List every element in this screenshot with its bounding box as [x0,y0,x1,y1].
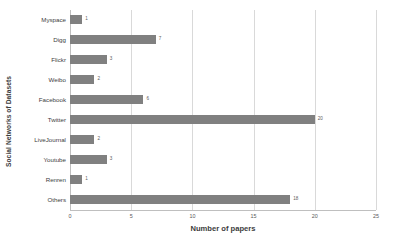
bar-row: 7 [70,35,376,44]
bar-value-label: 20 [318,117,323,122]
category-label-flickr: Flickr [0,56,70,63]
bar-row: 2 [70,75,376,84]
bar-flickr [70,55,107,64]
x-tick-label: 10 [180,213,204,219]
plot-area: 173262023118 [70,10,376,210]
bar-value-label: 7 [159,37,162,42]
x-axis-title: Number of papers [70,224,376,233]
category-label-youtube: Youtube [0,156,70,163]
bar-livejournal [70,135,94,144]
bar-row: 18 [70,195,376,204]
category-label-renren: Renren [0,176,70,183]
gridline-25 [376,10,377,210]
x-tick-label: 0 [58,213,82,219]
x-tick-label: 25 [364,213,388,219]
bar-value-label: 1 [85,177,88,182]
category-label-twitter: Twitter [0,116,70,123]
bar-value-label: 3 [110,57,113,62]
x-tick-label: 20 [303,213,327,219]
category-label-weibo: Weibo [0,76,70,83]
bar-value-label: 2 [97,137,100,142]
bar-value-label: 18 [293,197,298,202]
category-label-facebook: Facebook [0,96,70,103]
bar-myspace [70,15,82,24]
category-label-digg: Digg [0,36,70,43]
bar-row: 3 [70,155,376,164]
bar-chart: Social Networks of Datasets 173262023118… [0,0,396,243]
bar-value-label: 1 [85,17,88,22]
bar-others [70,195,290,204]
bar-row: 1 [70,15,376,24]
bar-value-label: 6 [146,97,149,102]
bar-renren [70,175,82,184]
bar-youtube [70,155,107,164]
bar-row: 6 [70,95,376,104]
bar-row: 2 [70,135,376,144]
category-label-livejournal: LiveJournal [0,136,70,143]
x-tick-label: 15 [242,213,266,219]
bar-facebook [70,95,143,104]
category-label-myspace: Myspace [0,16,70,23]
bar-value-label: 3 [110,157,113,162]
bar-weibo [70,75,94,84]
bar-row: 1 [70,175,376,184]
bar-row: 20 [70,115,376,124]
bar-twitter [70,115,315,124]
x-tick-label: 5 [119,213,143,219]
bar-value-label: 2 [97,77,100,82]
category-label-others: Others [0,196,70,203]
bar-digg [70,35,156,44]
x-axis-line [70,210,376,211]
bar-row: 3 [70,55,376,64]
